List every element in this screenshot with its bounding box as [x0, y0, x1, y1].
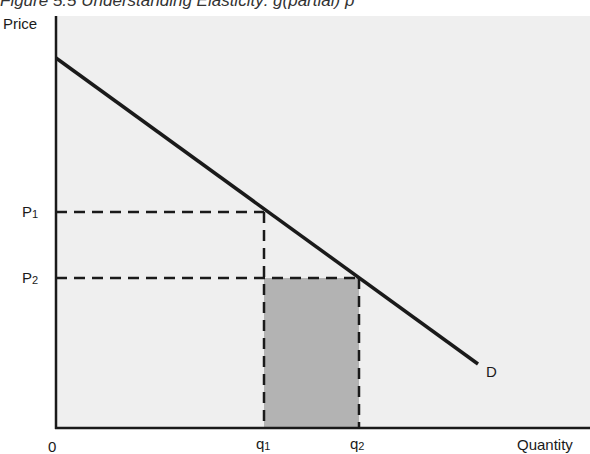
- q2-label-sub: 2: [358, 440, 364, 452]
- y-axis-label: Price: [3, 15, 37, 32]
- p2-label-sub: 2: [32, 274, 38, 286]
- demand-curve-label: D: [486, 363, 497, 380]
- q1-label: q1: [256, 435, 270, 452]
- p2-label: P2: [22, 269, 38, 286]
- p1-label-sub: 1: [32, 208, 38, 220]
- p2-label-main: P: [22, 269, 32, 286]
- chart-canvas: [0, 0, 590, 454]
- q1-label-sub: 1: [264, 440, 270, 452]
- q2-label: q2: [350, 435, 364, 452]
- origin-label: 0: [48, 438, 56, 454]
- shaded-region: [264, 278, 359, 428]
- p1-label: P1: [22, 203, 38, 220]
- p1-label-main: P: [22, 203, 32, 220]
- x-axis-label: Quantity: [517, 436, 573, 453]
